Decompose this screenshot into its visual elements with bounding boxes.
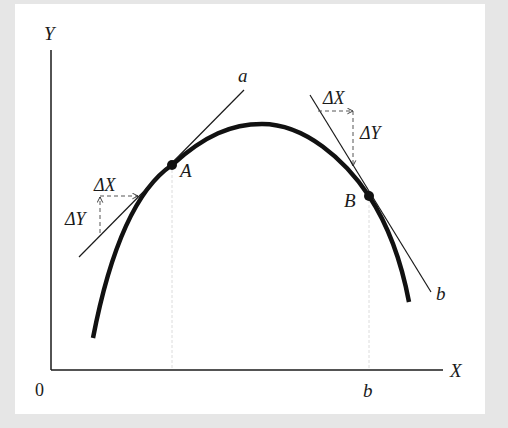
x-axis-label: X [449, 360, 463, 381]
delta-x-label-B: ΔX [322, 88, 346, 108]
curve [93, 124, 409, 338]
tangent-a-label: a [238, 65, 248, 86]
delta-y-label-B: ΔY [359, 123, 383, 143]
point-B-label: B [344, 190, 356, 211]
point-B [364, 191, 374, 201]
origin-label: 0 [35, 380, 44, 400]
tangent-line-a [79, 90, 244, 257]
delta-y-label-A: ΔY [64, 209, 88, 229]
tangent-slope-diagram: Y X 0 b A B a b ΔX ΔY ΔX ΔY [0, 0, 508, 428]
x-tick-label-b: b [363, 380, 373, 401]
y-axis-label: Y [44, 23, 57, 44]
point-A [167, 160, 177, 170]
point-A-label: A [178, 160, 192, 181]
tangent-b-label: b [436, 283, 446, 304]
delta-x-label-A: ΔX [93, 175, 117, 195]
